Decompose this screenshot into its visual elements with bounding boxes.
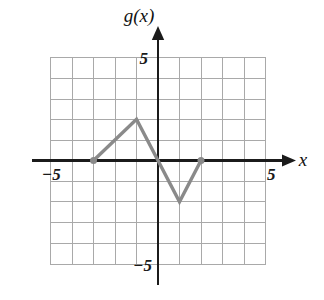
coordinate-plane-svg: g(x) x 5 −5 −5 5: [0, 0, 324, 300]
x-axis-label: x: [298, 149, 308, 170]
y-tick-label-positive-5: 5: [140, 49, 149, 68]
y-axis-arrow-icon: [152, 26, 164, 40]
x-axis-arrow-icon: [282, 155, 296, 167]
x-tick-label-negative-5: −5: [42, 165, 61, 184]
curve-endpoint-dot: [90, 157, 97, 164]
curve-endpoint-dot: [198, 157, 205, 164]
y-tick-label-negative-5: −5: [133, 256, 152, 275]
x-tick-label-positive-5: 5: [267, 165, 276, 184]
graph-figure: g(x) x 5 −5 −5 5: [0, 0, 324, 300]
y-axis-label: g(x): [124, 5, 155, 27]
